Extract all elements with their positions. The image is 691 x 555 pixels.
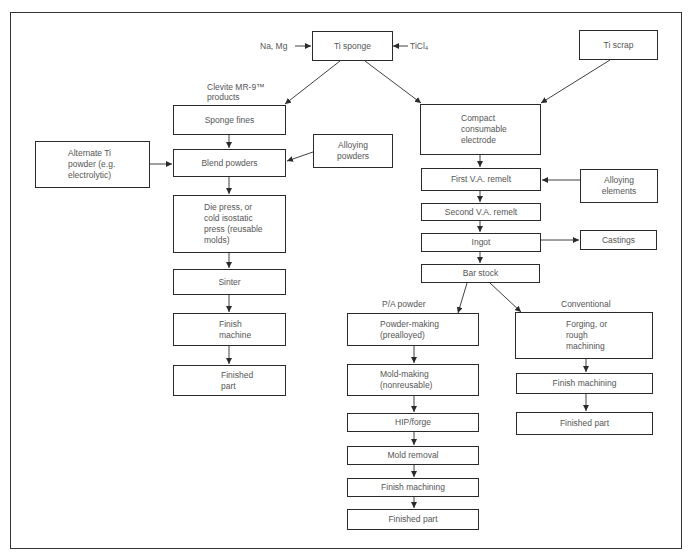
node-ti-sponge: Ti sponge [312,31,393,61]
node-ingot: Ingot [421,233,541,252]
node-finished-part-left-text: Finished part [221,370,253,392]
node-finish-machining-conv: Finish machining [516,373,653,394]
node-alloying-powders-text: Alloying powders [337,140,369,162]
node-finished-part-pa-text: Finished part [388,514,437,525]
node-blend-powders-text: Blend powders [201,158,257,169]
node-finish-machining-pa-text: Finish machining [381,482,445,493]
node-sinter-text: Sinter [218,277,240,288]
clevite-products-label: Clevite MR-9™ products [207,82,265,102]
node-ti-scrap-text: Ti scrap [604,40,634,51]
node-finished-part-conv: Finished part [516,412,653,435]
conventional-label: Conventional [561,299,611,309]
node-compact-electrode-text: Compact consumable electrode [461,113,507,146]
node-sinter: Sinter [173,269,286,295]
node-bar-stock-text: Bar stock [463,268,498,279]
node-blend-powders: Blend powders [173,149,286,177]
node-alloying-elements-text: Alloying elements [602,175,637,197]
node-finish-machining-pa: Finish machining [347,478,479,497]
node-die-press: Die press, or cold isostatic press (reus… [173,195,286,253]
node-ti-sponge-text: Ti sponge [334,41,371,52]
pa-powder-label: P/A powder [382,299,425,309]
node-second-va-remelt-text: Second V.A. remelt [445,207,517,218]
node-alloying-elements: Alloying elements [580,169,658,203]
node-hip-forge: HIP/forge [347,413,479,432]
node-finished-part-conv-text: Finished part [560,418,609,429]
node-sponge-fines-text: Sponge fines [205,115,255,126]
input-na-mg-label: Na, Mg [260,41,287,51]
node-powder-making-text: Powder-making (prealloyed) [380,319,439,341]
node-mold-removal: Mold removal [347,446,479,465]
node-castings-text: Castings [602,235,635,246]
node-ingot-text: Ingot [472,237,491,248]
node-first-va-remelt-text: First V.A. remelt [451,174,511,185]
node-ti-scrap: Ti scrap [579,30,658,60]
node-forging: Forging, or rough machining [515,312,653,359]
node-powder-making: Powder-making (prealloyed) [347,313,479,346]
node-alternate-ti-powder-text: Alternate Ti powder (e.g. electrolytic) [68,148,115,181]
node-hip-forge-text: HIP/forge [395,417,431,428]
input-ticl4-label: TiCl₄ [410,41,428,51]
node-mold-making: Mold-making (nonreusable) [347,364,479,396]
node-mold-removal-text: Mold removal [387,450,438,461]
node-finish-machining-conv-text: Finish machining [553,378,617,389]
node-second-va-remelt: Second V.A. remelt [421,203,541,221]
node-castings: Castings [580,230,657,250]
node-mold-making-text: Mold-making (nonreusable) [380,369,432,391]
node-alloying-powders: Alloying powders [313,134,393,168]
node-forging-text: Forging, or rough machining [566,319,607,352]
node-finish-machine-text: Finish machine [219,319,251,341]
node-alternate-ti-powder: Alternate Ti powder (e.g. electrolytic) [35,141,150,188]
node-first-va-remelt: First V.A. remelt [421,168,541,191]
node-die-press-text: Die press, or cold isostatic press (reus… [204,202,263,246]
node-finished-part-left: Finished part [173,365,286,396]
node-finished-part-pa: Finished part [347,509,479,530]
diagram-frame [10,12,682,549]
node-bar-stock: Bar stock [421,264,540,283]
node-finish-machine: Finish machine [173,313,286,346]
node-sponge-fines: Sponge fines [173,105,286,135]
node-compact-electrode: Compact consumable electrode [420,104,541,155]
